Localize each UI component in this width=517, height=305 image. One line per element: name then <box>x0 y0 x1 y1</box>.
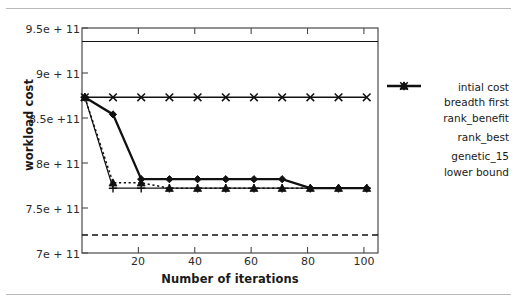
legend-item-genetic-15[interactable]: genetic_15 <box>386 149 514 165</box>
workload-cost-line-chart: workload cost 9.5e + 11 9e + 11 8.5e +11… <box>0 0 517 305</box>
legend-label: breadth first <box>444 96 514 108</box>
legend-item-breadth-first[interactable]: breadth first <box>386 95 514 111</box>
marker-diamond <box>250 176 257 183</box>
legend-key-dashed-plain <box>386 79 422 93</box>
chart-legend: intial costbreadth firstrank_benefitrank… <box>386 79 514 180</box>
series-line <box>85 97 367 188</box>
legend-label: rank_benefit <box>443 112 514 124</box>
legend-label: intial cost <box>458 81 514 93</box>
legend-item-rank-best[interactable]: rank_best <box>386 126 514 149</box>
marker-diamond <box>279 176 286 183</box>
legend-item-rank-benefit[interactable]: rank_benefit <box>386 110 514 126</box>
axes-frame <box>82 28 378 253</box>
legend-label: rank_best <box>458 131 514 143</box>
series-rank-benefit <box>81 94 371 102</box>
series-breadth-first <box>81 94 370 192</box>
marker-diamond <box>222 176 229 183</box>
legend-label: lower bound <box>444 166 514 178</box>
marker-diamond <box>166 176 173 183</box>
series-line <box>85 97 367 188</box>
legend-item-lower-bound[interactable]: lower bound <box>386 164 514 180</box>
legend-label: genetic_15 <box>451 150 514 162</box>
series-line <box>85 97 367 188</box>
marker-diamond <box>194 176 201 183</box>
data-series-layer <box>81 42 378 236</box>
